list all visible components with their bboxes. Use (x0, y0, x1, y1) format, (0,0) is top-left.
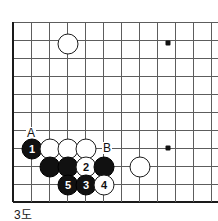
board-gridline-h (13, 94, 218, 95)
board-gridline-h (13, 112, 218, 113)
board-gridline-h (13, 76, 218, 77)
point-label-a[interactable]: A (26, 127, 36, 139)
board-gridline-h (13, 22, 218, 23)
figure-caption: 3도 (14, 209, 32, 221)
stone-white-move-4[interactable]: 4 (94, 175, 115, 196)
point-label-b[interactable]: B (102, 142, 112, 154)
board-gridline-v (31, 22, 32, 202)
stone-move-number: 1 (29, 143, 35, 154)
stone-move-number: 4 (101, 179, 107, 190)
stone-move-number: 3 (83, 179, 89, 190)
stone-move-number: 5 (65, 179, 71, 190)
stone-move-number: 2 (83, 161, 89, 172)
board-gridline-h (13, 58, 218, 59)
board-gridline-v (193, 22, 194, 202)
stone-white-upper-left-approach[interactable] (58, 34, 79, 55)
board-edge-left (12, 22, 14, 202)
board-gridline-v (211, 22, 212, 202)
stone-white-right-side[interactable] (130, 157, 151, 178)
board-gridline-h (13, 40, 218, 41)
board-edge-bottom (13, 201, 218, 203)
star-point-upper-right-icon (166, 41, 171, 46)
go-board[interactable]: AB12534 (0, 0, 218, 221)
star-point-lower-right-icon (166, 146, 171, 151)
board-gridline-h (13, 130, 218, 131)
board-gridline-v (121, 22, 122, 202)
board-gridline-h (13, 184, 218, 185)
board-gridline-v (157, 22, 158, 202)
go-diagram-figure: AB12534 3도 (0, 0, 218, 221)
board-gridline-v (175, 22, 176, 202)
